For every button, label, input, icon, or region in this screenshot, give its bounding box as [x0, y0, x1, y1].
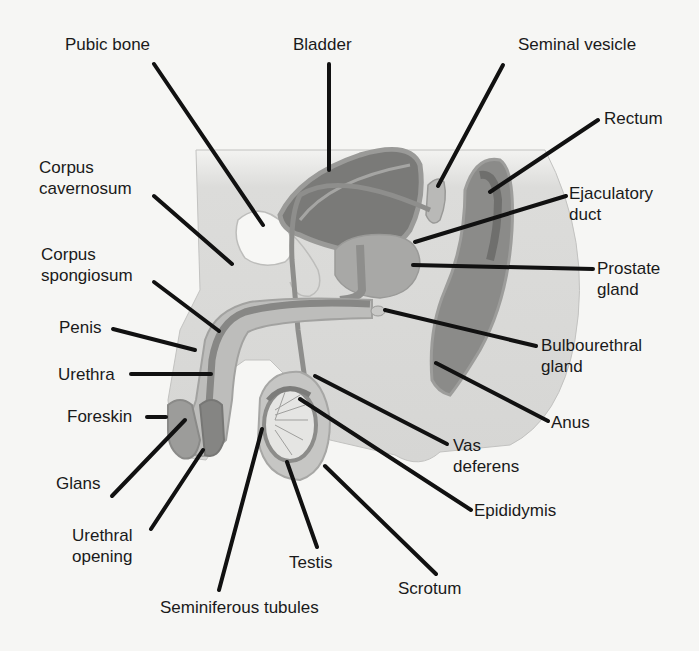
label-urethra: Urethra: [58, 364, 115, 385]
label-corpus-cavernosum: Corpus cavernosum: [39, 157, 132, 199]
label-penis: Penis: [59, 317, 102, 338]
label-corpus-spongiosum: Corpus spongiosum: [41, 244, 133, 286]
bulbourethral-shape: [371, 306, 385, 316]
label-ejaculatory-duct: Ejaculatory duct: [569, 183, 653, 225]
label-testis: Testis: [289, 552, 332, 573]
label-seminiferous-tubules: Seminiferous tubules: [160, 597, 319, 618]
label-rectum: Rectum: [604, 108, 663, 129]
label-glans: Glans: [56, 473, 100, 494]
anatomy-diagram: Pubic bone Bladder Seminal vesicle Rectu…: [0, 0, 699, 651]
label-prostate-gland: Prostate gland: [597, 258, 660, 300]
label-urethral-opening: Urethral opening: [72, 525, 133, 567]
label-bulbourethral-gland: Bulbourethral gland: [541, 335, 642, 377]
testis-shape: [264, 389, 316, 461]
label-vas-deferens: Vas deferens: [453, 435, 519, 477]
prostate-shape: [335, 235, 420, 298]
label-pubic-bone: Pubic bone: [65, 34, 150, 55]
label-anus: Anus: [551, 412, 590, 433]
label-scrotum: Scrotum: [398, 578, 461, 599]
label-bladder: Bladder: [293, 34, 352, 55]
label-seminal-vesicle: Seminal vesicle: [518, 34, 636, 55]
label-foreskin: Foreskin: [67, 406, 132, 427]
label-epididymis: Epididymis: [474, 500, 556, 521]
scrotum-shape: [258, 372, 330, 480]
